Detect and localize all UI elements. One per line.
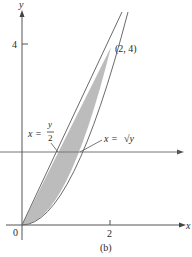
line-curve-x-equals-y-over-2 — [22, 12, 122, 225]
line-label-leader — [51, 143, 58, 152]
parabola-equation-lhs: x = — [103, 133, 118, 144]
parabola-curve-x-equals-sqrt-y — [22, 12, 128, 225]
intersection-label: (2, 4) — [115, 43, 137, 55]
y-axis-label: y — [18, 0, 24, 10]
parabola-equation-rhs: √y — [124, 133, 134, 144]
x-axis-label: x — [185, 220, 191, 231]
region-diagram: x y 4 2 0 (2, 4) x = y 2 x = √y (b) — [0, 0, 192, 257]
line-equation-lhs: x = — [27, 128, 42, 139]
x-axis-arrowhead-icon — [179, 223, 186, 228]
line-equation-numerator: y — [47, 119, 52, 129]
line-equation-denominator: 2 — [48, 133, 53, 143]
slice-arrowhead-icon — [177, 150, 184, 155]
parabola-label-leader — [80, 140, 102, 152]
x-tick-label-2: 2 — [107, 228, 112, 239]
y-tick-label-4: 4 — [12, 39, 17, 50]
origin-label: 0 — [13, 227, 18, 238]
y-axis-arrowhead-icon — [20, 10, 25, 17]
figure-caption: (b) — [100, 242, 112, 254]
